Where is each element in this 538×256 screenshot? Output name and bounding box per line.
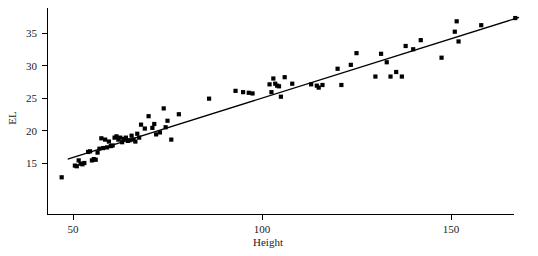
data-point [283,75,287,79]
data-point [177,112,181,116]
plot-axes [48,8,515,215]
data-point [60,175,64,179]
data-point [118,136,122,140]
data-point [271,76,275,80]
data-point [247,91,251,95]
data-point [95,151,99,155]
data-point [250,91,254,95]
data-point [107,139,111,143]
regression-fit-line [68,17,519,159]
data-point [277,84,281,88]
data-point [133,139,137,143]
y-tick-label: 20 [26,125,38,137]
x-axis-ticks: 50100150 [68,215,460,236]
data-point [152,122,156,126]
data-point [317,86,321,90]
data-point [269,90,273,94]
data-point [147,114,151,118]
data-point [336,67,340,71]
x-tick-label: 50 [68,223,80,235]
y-axis-title: EL [6,111,18,125]
data-point [453,30,457,34]
data-point [165,119,169,123]
data-point [419,38,423,42]
data-point [162,106,166,110]
data-point [404,44,408,48]
data-points-layer [60,16,518,179]
data-point [456,39,460,43]
x-tick-label: 100 [254,223,271,235]
y-tick-label: 15 [26,157,38,169]
data-point [394,70,398,74]
data-point [143,126,147,130]
data-point [169,138,173,142]
data-point [207,97,211,101]
data-point [82,161,86,165]
data-point [388,74,392,78]
data-point [129,134,133,138]
data-point [290,82,294,86]
data-point [455,19,459,23]
data-point [241,90,245,94]
data-point [279,95,283,99]
data-point [354,51,358,55]
data-point [385,60,389,64]
data-point [150,126,154,130]
data-point [94,158,98,162]
plot-canvas: 1520253035 50100150 EL Height [0,0,538,256]
data-point [373,74,377,78]
data-point [379,52,383,56]
data-point [267,82,271,86]
data-point [339,83,343,87]
data-point [154,132,158,136]
data-point [233,89,237,93]
y-tick-label: 30 [26,60,38,72]
x-axis-title: Height [253,236,283,248]
data-point [75,164,79,168]
data-point [103,138,107,142]
data-point [349,63,353,67]
data-point [400,74,404,78]
data-point [99,136,103,140]
data-point [135,132,139,136]
data-point [439,56,443,60]
y-axis-ticks: 1520253035 [26,27,48,169]
x-tick-label: 150 [443,223,460,235]
y-tick-label: 35 [26,27,38,39]
data-point [479,23,483,27]
data-point [139,123,143,127]
scatter-plot-figure: 1520253035 50100150 EL Height [0,0,538,256]
y-tick-label: 25 [26,92,38,104]
data-point [320,83,324,87]
